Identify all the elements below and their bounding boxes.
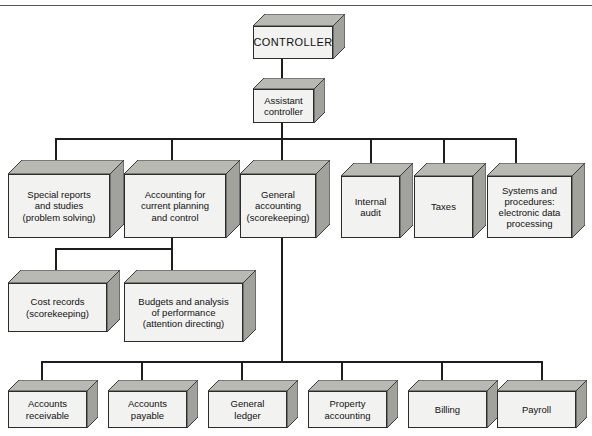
node-taxes-front: Taxes	[414, 176, 473, 238]
node-billing[interactable]: Billing	[408, 380, 498, 428]
node-payroll-label: Payroll	[522, 404, 551, 415]
node-internal-audit-label: Internal audit	[355, 196, 387, 218]
node-payroll-front: Payroll	[497, 391, 576, 428]
node-general-ledger-front: General ledger	[208, 391, 287, 428]
node-property-accounting[interactable]: Property accounting	[308, 380, 398, 428]
node-property-accounting-front: Property accounting	[308, 391, 387, 428]
drop-taxes	[443, 138, 445, 166]
node-general-ledger[interactable]: General ledger	[208, 380, 298, 428]
node-assistant-controller-front: Assistant controller	[253, 89, 314, 123]
node-taxes[interactable]: Taxes	[414, 163, 486, 238]
level3-horizontal-bus	[55, 138, 515, 140]
node-accounts-payable[interactable]: Accounts payable	[108, 380, 198, 428]
node-cost-records-front: Cost records (scorekeeping)	[8, 283, 107, 332]
level5-horizontal-bus	[41, 361, 542, 363]
node-budgets-analysis[interactable]: Budgets and analysis of performance (att…	[124, 270, 256, 342]
node-property-accounting-label: Property accounting	[325, 398, 371, 420]
node-general-accounting-label: General accounting (scorekeeping)	[247, 189, 310, 223]
node-cost-records-label: Cost records (scorekeeping)	[26, 296, 89, 318]
node-assistant-controller-label: Assistant controller	[264, 95, 303, 117]
node-accounting-current-planning-label: Accounting for current planning and cont…	[141, 189, 209, 223]
node-accounts-payable-label: Accounts payable	[128, 398, 167, 420]
node-general-ledger-label: General ledger	[231, 398, 265, 420]
node-cost-records[interactable]: Cost records (scorekeeping)	[8, 270, 120, 332]
connector-assistant-to-level3-bus	[281, 122, 283, 139]
node-internal-audit-front: Internal audit	[341, 176, 400, 238]
node-accounts-receivable[interactable]: Accounts receivable	[8, 380, 98, 428]
node-payroll[interactable]: Payroll	[497, 380, 587, 428]
node-accounting-current-planning[interactable]: Accounting for current planning and cont…	[124, 160, 240, 238]
node-budgets-analysis-front: Budgets and analysis of performance (att…	[124, 283, 243, 342]
node-internal-audit[interactable]: Internal audit	[341, 163, 413, 238]
node-controller-label: CONTROLLER	[253, 36, 332, 49]
node-assistant-controller[interactable]: Assistant controller	[253, 78, 325, 123]
drop-internal-audit	[370, 138, 372, 166]
level4-horizontal-bus	[55, 248, 173, 250]
node-systems-procedures[interactable]: Systems and procedures: electronic data …	[487, 163, 585, 238]
org-chart-page: CONTROLLER Assistant controller Special …	[0, 0, 592, 436]
node-special-reports[interactable]: Special reports and studies (problem sol…	[8, 160, 124, 238]
node-special-reports-label: Special reports and studies (problem sol…	[23, 189, 96, 223]
node-accounts-receivable-front: Accounts receivable	[8, 391, 87, 428]
node-systems-procedures-front: Systems and procedures: electronic data …	[487, 176, 572, 238]
node-accounts-receivable-label: Accounts receivable	[26, 398, 69, 420]
node-systems-procedures-label: Systems and procedures: electronic data …	[499, 185, 561, 230]
node-budgets-analysis-label: Budgets and analysis of performance (att…	[138, 296, 228, 330]
node-accounts-payable-front: Accounts payable	[108, 391, 187, 428]
node-general-accounting-front: General accounting (scorekeeping)	[240, 174, 316, 238]
drop-systems-procedures	[515, 138, 517, 166]
node-taxes-label: Taxes	[431, 201, 456, 212]
top-divider-rule	[0, 5, 592, 6]
node-controller[interactable]: CONTROLLER	[253, 14, 345, 59]
node-general-accounting[interactable]: General accounting (scorekeeping)	[240, 160, 330, 238]
node-accounting-current-planning-front: Accounting for current planning and cont…	[124, 174, 226, 238]
node-special-reports-front: Special reports and studies (problem sol…	[8, 174, 110, 238]
node-billing-label: Billing	[435, 404, 460, 415]
node-billing-front: Billing	[408, 391, 487, 428]
connector-general-accounting-to-level5-bus	[281, 235, 283, 363]
node-controller-front: CONTROLLER	[253, 26, 333, 59]
